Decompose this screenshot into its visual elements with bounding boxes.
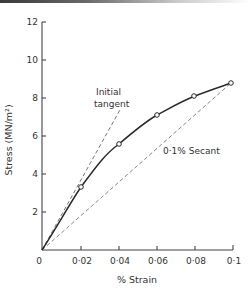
- data-point-marker: [192, 94, 197, 99]
- x-tick-label: 0·02: [72, 256, 92, 266]
- y-tick-label: 12: [27, 17, 38, 27]
- x-axis-title: % Strain: [117, 274, 157, 285]
- data-point-marker: [117, 142, 122, 147]
- x-tick-label: 0·1: [227, 256, 241, 266]
- x-tick-label: 0·06: [148, 256, 168, 266]
- y-tick-label: 2: [32, 207, 38, 217]
- x-tick-label: 0·04: [110, 256, 130, 266]
- y-tick-label: 4: [32, 169, 38, 179]
- y-tick-label: 6: [32, 131, 38, 141]
- data-point-marker: [155, 113, 160, 118]
- y-axis-title: Stress (MN/m²): [3, 104, 14, 175]
- axes: [42, 22, 233, 250]
- data-point-marker: [229, 81, 234, 86]
- y-tick-label: 8: [32, 93, 38, 103]
- data-point-marker: [79, 185, 84, 190]
- y-tick-label: 10: [27, 55, 39, 65]
- annotation-secant: 0·1% Secant: [163, 146, 220, 156]
- y-tick-labels: 2 4 6 8 10 12: [27, 17, 39, 217]
- secant-line: [42, 83, 231, 250]
- annotation-initial: Initial: [96, 87, 121, 97]
- x-tick-label: 0·08: [186, 256, 206, 266]
- x-tick-labels: 0 0·02 0·04 0·06 0·08 0·1: [36, 256, 241, 266]
- initial-tangent-line: [42, 108, 121, 250]
- annotation-tangent: tangent: [94, 99, 130, 109]
- stress-strain-chart: 2 4 6 8 10 12 0 0·02 0·04 0·06 0·08 0·1 …: [0, 0, 250, 300]
- origin-label: 0: [36, 256, 42, 266]
